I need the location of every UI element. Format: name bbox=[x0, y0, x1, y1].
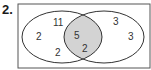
intersection-value-top: 5 bbox=[74, 30, 80, 41]
left-only-value-top: 11 bbox=[53, 17, 64, 28]
right-only-value-top: 3 bbox=[113, 16, 119, 27]
right-only-value-middle: 3 bbox=[128, 31, 134, 42]
intersection-value-bottom: 2 bbox=[82, 43, 88, 54]
left-only-value-bottom: 2 bbox=[55, 47, 61, 58]
venn-diagram: 11 2 2 5 2 3 3 bbox=[0, 0, 151, 70]
left-only-value-middle: 2 bbox=[36, 31, 42, 42]
